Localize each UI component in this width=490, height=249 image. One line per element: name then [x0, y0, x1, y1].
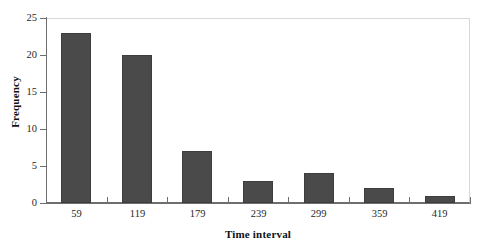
x-axis-tick [349, 197, 350, 203]
y-axis-tick-label: 10 [27, 124, 38, 134]
y-axis-tick-label: 25 [27, 13, 38, 23]
y-axis-tick-label: 5 [32, 161, 37, 171]
bar [182, 151, 212, 203]
x-axis-tick-label: 299 [288, 208, 349, 220]
x-axis-tick [167, 197, 168, 203]
bar [243, 181, 273, 203]
y-axis-tick-label: 15 [27, 87, 38, 97]
y-axis-tick [40, 18, 46, 19]
x-axis-line [46, 203, 471, 204]
y-axis-tick-label: 20 [27, 50, 38, 60]
x-axis-tick [470, 197, 471, 203]
bar [304, 173, 334, 203]
x-axis-tick [107, 197, 108, 203]
y-axis-tick [40, 92, 46, 93]
y-axis-tick [40, 166, 46, 167]
x-axis-tick [228, 197, 229, 203]
bar [364, 188, 394, 203]
y-axis-title: Frequency [7, 0, 23, 203]
bar [425, 196, 455, 203]
plot-area [46, 18, 470, 203]
bar [61, 33, 91, 203]
y-axis-tick-label: 0 [32, 198, 37, 208]
x-axis-tick-label: 359 [349, 208, 410, 220]
y-axis-tick [40, 129, 46, 130]
bar-chart-figure: 051015202559119179239299359419 Frequency… [0, 0, 490, 249]
x-axis-tick-label: 59 [46, 208, 107, 220]
x-axis-tick-label: 239 [228, 208, 289, 220]
x-axis-tick-label: 179 [167, 208, 228, 220]
x-axis-tick [288, 197, 289, 203]
x-axis-tick [409, 197, 410, 203]
y-axis-tick [40, 55, 46, 56]
y-axis-line [46, 17, 47, 204]
x-axis-tick-label: 119 [107, 208, 168, 220]
bar [122, 55, 152, 203]
y-axis-title-text: Frequency [9, 76, 21, 128]
x-axis-tick-label: 419 [409, 208, 470, 220]
y-axis-tick [40, 203, 46, 204]
x-axis-title: Time interval [46, 228, 470, 240]
